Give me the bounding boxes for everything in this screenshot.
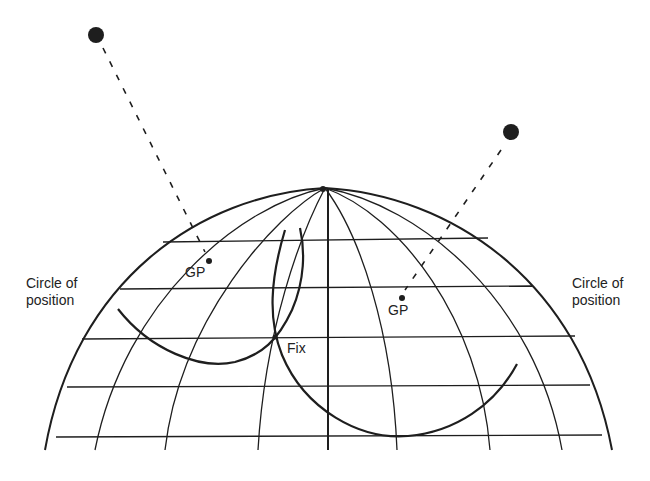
right-star-ray (405, 150, 501, 290)
left-gp-label: GP (185, 264, 205, 281)
meridian-left-3 (258, 188, 325, 450)
pole-icon (320, 186, 326, 192)
left-star-icon (88, 27, 104, 43)
right-star-icon (503, 124, 519, 140)
meridian-right-2 (325, 188, 490, 450)
right-outer-meridian (325, 188, 612, 450)
meridian-left-2 (165, 188, 325, 450)
meridian-right-3 (325, 188, 562, 450)
right-circle-label: Circle of position (572, 275, 623, 309)
parallel-2 (120, 286, 532, 289)
left-gp-dot-icon (206, 258, 212, 264)
fix-label: Fix (287, 340, 306, 357)
diagram-svg (0, 0, 650, 481)
left-circle-label: Circle of position (26, 275, 77, 309)
meridian-left-1 (95, 188, 325, 450)
right-gp-label: GP (388, 302, 408, 319)
navigation-fix-diagram: Circle of position Circle of position GP… (0, 0, 650, 481)
left-outer-meridian (45, 188, 325, 450)
fix-point-icon (273, 335, 278, 340)
right-gp-dot-icon (399, 295, 405, 301)
meridians (95, 188, 562, 450)
left-star-ray (103, 48, 205, 252)
right-circle-of-position (273, 230, 517, 436)
